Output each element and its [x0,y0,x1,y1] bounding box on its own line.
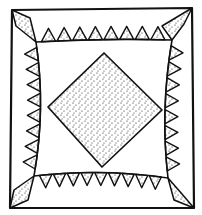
sawtooth-bottom-8 [136,174,148,188]
sawtooth-left-4 [28,93,41,107]
sawtooth-top-8 [151,27,165,40]
sawtooth-left-3 [27,78,40,92]
sawtooth-bottom-4 [81,172,93,185]
sawtooth-top-7 [135,26,149,39]
sawtooth-left-5 [27,109,40,123]
sawtooth-bottom-7 [122,173,134,186]
quilt-block-drawing [0,0,202,215]
sawtooth-left-7 [25,139,39,153]
sawtooth-right-4 [165,94,178,108]
sawtooth-top-1 [41,28,55,41]
sawtooth-bottom-1 [39,174,51,188]
sawtooth-bottom-3 [67,173,79,186]
sawtooth-top-6 [120,26,134,39]
sawtooth-right-3 [166,78,180,92]
sawtooth-right-5 [165,110,178,124]
sawtooth-bottom-2 [53,173,65,186]
sawtooth-bottom-6 [108,173,120,186]
center-diamond [48,53,162,167]
sawtooth-top-5 [104,26,118,39]
inner-edge-right [165,40,172,178]
sawtooth-top-4 [88,27,102,40]
sawtooth-left-2 [26,63,40,77]
inner-edge-top [36,39,172,42]
sawtooth-bottom-5 [95,172,107,185]
corner-kite-bottom-right [168,178,194,208]
corner-kite-bottom-left [10,176,34,208]
sawtooth-top-2 [57,28,71,41]
sawtooth-top-3 [73,27,87,40]
center-diamond-shape [48,53,162,167]
sawtooth-right-8 [166,157,180,171]
sawtooth-right-7 [165,141,178,155]
corner-kite-top-right [162,8,192,40]
corner-kite-top-left [12,10,36,42]
sawtooth-left-6 [27,124,40,138]
sawtooth-right-6 [165,125,178,139]
